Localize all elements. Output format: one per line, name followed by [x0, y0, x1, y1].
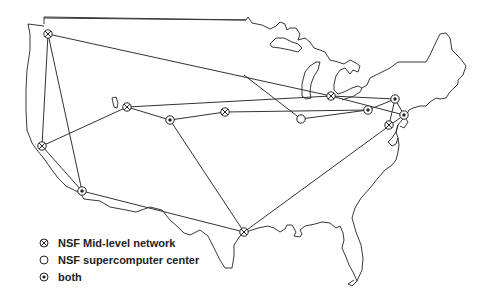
great-salt-lake	[112, 97, 118, 108]
atlantic-coast	[352, 33, 466, 281]
node-champaign	[297, 115, 305, 123]
network-nodes	[38, 30, 408, 236]
node-ithaca	[391, 95, 399, 103]
node-palo-alto	[38, 142, 46, 150]
gulf-coast	[246, 222, 357, 286]
node-college-park	[385, 121, 393, 129]
legend-item-supercomputer: NSF supercomputer center	[36, 251, 199, 268]
great-lakes	[270, 28, 362, 100]
node-pittsburgh	[364, 106, 372, 114]
legend-label: NSF supercomputer center	[58, 254, 199, 266]
supercomputer-center-icon	[36, 254, 52, 266]
legend: NSF Mid-level network NSF supercomputer …	[36, 234, 199, 285]
node-salt-lake	[123, 103, 131, 111]
node-san-diego	[78, 187, 86, 195]
legend-label: both	[58, 271, 82, 283]
chesapeake-bay	[388, 116, 408, 146]
node-princeton	[400, 111, 408, 119]
both-icon	[36, 271, 52, 283]
west-coast	[26, 24, 246, 268]
network-links	[42, 18, 404, 232]
legend-item-both: both	[36, 268, 199, 285]
node-ann-arbor	[327, 92, 335, 100]
legend-item-mid-level: NSF Mid-level network	[36, 234, 199, 251]
node-boulder	[166, 116, 174, 124]
node-houston	[240, 228, 248, 236]
node-lincoln	[221, 108, 229, 116]
node-seattle	[44, 30, 52, 38]
mid-level-network-icon	[36, 237, 52, 249]
legend-label: NSF Mid-level network	[58, 237, 175, 249]
